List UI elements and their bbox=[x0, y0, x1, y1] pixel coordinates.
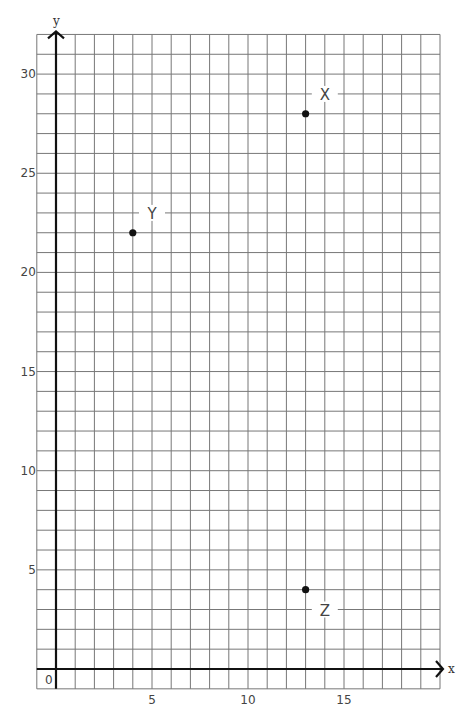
origin-label: 0 bbox=[45, 673, 53, 687]
point-label-z: Z bbox=[320, 602, 330, 620]
point-z bbox=[302, 586, 309, 593]
point-y bbox=[129, 229, 136, 236]
y-tick-label: 10 bbox=[21, 464, 36, 478]
x-tick-label: 15 bbox=[336, 693, 351, 707]
data-points: XYZ bbox=[129, 86, 338, 620]
y-tick-label: 30 bbox=[21, 67, 36, 81]
y-tick-label: 15 bbox=[21, 365, 36, 379]
y-axis-label: y bbox=[52, 14, 60, 28]
y-tick-label: 20 bbox=[21, 265, 36, 279]
point-x bbox=[302, 110, 309, 117]
x-tick-label: 5 bbox=[148, 693, 156, 707]
coordinate-grid-chart: xy 05101551015202530 XYZ bbox=[0, 0, 470, 728]
tick-labels: 05101551015202530 bbox=[21, 67, 352, 707]
x-axis-label: x bbox=[448, 662, 455, 676]
x-tick-label: 10 bbox=[240, 693, 255, 707]
grid-lines bbox=[37, 34, 440, 688]
y-tick-label: 25 bbox=[21, 166, 36, 180]
point-label-x: X bbox=[320, 86, 330, 104]
y-tick-label: 5 bbox=[28, 563, 36, 577]
point-label-y: Y bbox=[146, 205, 157, 223]
